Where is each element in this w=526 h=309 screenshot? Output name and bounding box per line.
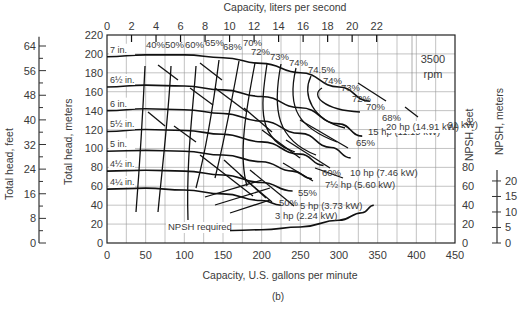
impeller-label: 4½ in. [110, 159, 135, 169]
svg-text:2: 2 [128, 20, 134, 32]
impeller-label: 6½ in. [110, 75, 135, 85]
svg-text:65%: 65% [356, 137, 376, 148]
svg-text:0: 0 [505, 237, 511, 249]
svg-text:12: 12 [248, 20, 260, 32]
impeller-labels: 7 in.6½ in.6 in.5½ in.5 in.4½ in.4¼ in. [109, 44, 135, 187]
svg-text:40%: 40% [146, 39, 166, 50]
npsh-required-label: NPSH required [168, 221, 232, 232]
svg-text:100: 100 [175, 249, 193, 261]
figure-caption: (b) [272, 291, 284, 302]
left-axis-title-meters: Total head, meters [62, 99, 74, 185]
impeller-label: 5½ in. [110, 119, 135, 129]
svg-text:40: 40 [24, 114, 36, 126]
svg-text:73%: 73% [341, 82, 361, 93]
svg-text:65%: 65% [205, 37, 225, 48]
svg-text:40: 40 [91, 199, 103, 211]
svg-text:10: 10 [223, 20, 235, 32]
svg-text:73%: 73% [270, 51, 290, 62]
top-axis-title: Capacity, liters per second [224, 1, 347, 13]
svg-text:74.5%: 74.5% [308, 64, 335, 75]
svg-text:6: 6 [177, 20, 183, 32]
y-axis-npsh-meters-ticks: 05101520 [492, 170, 517, 249]
impeller-label: 5 in. [110, 139, 127, 149]
svg-text:20: 20 [505, 175, 517, 187]
y-axis-head-feet-ticks: 020406080100120140160180200220 [85, 29, 103, 249]
svg-text:70%: 70% [366, 101, 386, 112]
svg-text:120: 120 [85, 124, 103, 136]
y-axis-head-meters-ticks: 0816243240485664 [24, 37, 46, 249]
svg-text:300: 300 [330, 249, 348, 261]
svg-text:200: 200 [252, 249, 270, 261]
impeller-curve [107, 188, 281, 205]
svg-text:24: 24 [24, 163, 36, 175]
bottom-axis-title: Capacity, U.S. gallons per minute [202, 269, 357, 281]
svg-text:74%: 74% [323, 75, 343, 86]
svg-text:80: 80 [462, 161, 474, 173]
svg-text:8: 8 [30, 212, 36, 224]
impeller-label: 6 in. [110, 99, 127, 109]
svg-text:56: 56 [24, 65, 36, 77]
svg-text:48: 48 [24, 89, 36, 101]
svg-text:7½ hp (5.60 kW): 7½ hp (5.60 kW) [325, 179, 395, 190]
svg-text:60%: 60% [322, 167, 342, 178]
svg-text:5: 5 [505, 221, 511, 233]
svg-text:16: 16 [24, 188, 36, 200]
svg-text:0: 0 [104, 249, 110, 261]
svg-text:8: 8 [202, 20, 208, 32]
svg-text:20: 20 [346, 20, 358, 32]
svg-text:16: 16 [297, 20, 309, 32]
y-axis-npsh-feet-ticks: 020406080 [462, 161, 474, 249]
left-axis-title-feet: Total head, feet [3, 128, 15, 200]
svg-text:50%: 50% [279, 197, 299, 208]
svg-text:140: 140 [85, 105, 103, 117]
svg-text:68%: 68% [223, 41, 243, 52]
speed-label-rpm-unit: rpm [424, 68, 443, 80]
impeller-label: 4¼ in. [110, 177, 135, 187]
svg-text:0: 0 [30, 237, 36, 249]
svg-text:22: 22 [371, 20, 383, 32]
svg-text:40: 40 [462, 199, 474, 211]
svg-text:20: 20 [462, 218, 474, 230]
svg-text:60%: 60% [185, 39, 205, 50]
svg-text:60: 60 [91, 180, 103, 192]
svg-text:10: 10 [505, 206, 517, 218]
svg-text:80: 80 [91, 161, 103, 173]
svg-text:0: 0 [97, 237, 103, 249]
svg-text:14: 14 [272, 20, 284, 32]
impeller-label: 7 in. [110, 45, 127, 55]
svg-text:15: 15 [505, 190, 517, 202]
svg-text:180: 180 [85, 67, 103, 79]
x-axis-gpm-ticks: 050100150200250300350400450 [104, 249, 464, 261]
svg-text:50: 50 [140, 249, 152, 261]
svg-text:4: 4 [153, 20, 159, 32]
svg-text:10 hp (7.46 kW): 10 hp (7.46 kW) [350, 167, 418, 178]
svg-text:250: 250 [291, 249, 309, 261]
svg-text:64: 64 [24, 40, 36, 52]
svg-text:0: 0 [104, 20, 110, 32]
right-axis-title-npsh-meters: NPSH, meters [493, 88, 505, 155]
svg-text:200: 200 [85, 48, 103, 60]
svg-text:100: 100 [85, 142, 103, 154]
svg-text:20: 20 [91, 218, 103, 230]
svg-text:74%: 74% [289, 57, 309, 68]
svg-text:32: 32 [24, 139, 36, 151]
svg-text:60: 60 [462, 180, 474, 192]
power-label-20hp: 20 hp (14.91 kW) [386, 121, 459, 132]
svg-text:350: 350 [368, 249, 386, 261]
svg-text:160: 160 [85, 86, 103, 98]
svg-text:0: 0 [462, 237, 468, 249]
pump-performance-chart: Capacity, liters per second 050100150200… [0, 0, 526, 309]
svg-text:400: 400 [407, 249, 425, 261]
right-axis-title-npsh-feet: NPSH, feet [463, 108, 475, 161]
speed-label-rpm-value: 3500 [421, 53, 445, 65]
svg-text:220: 220 [85, 29, 103, 41]
svg-text:50%: 50% [165, 39, 185, 50]
svg-text:55%: 55% [298, 187, 318, 198]
svg-text:150: 150 [214, 249, 232, 261]
svg-text:72%: 72% [251, 46, 271, 57]
svg-text:3 hp (2.24 kW): 3 hp (2.24 kW) [275, 210, 337, 221]
svg-text:450: 450 [446, 249, 464, 261]
svg-text:18: 18 [322, 20, 334, 32]
